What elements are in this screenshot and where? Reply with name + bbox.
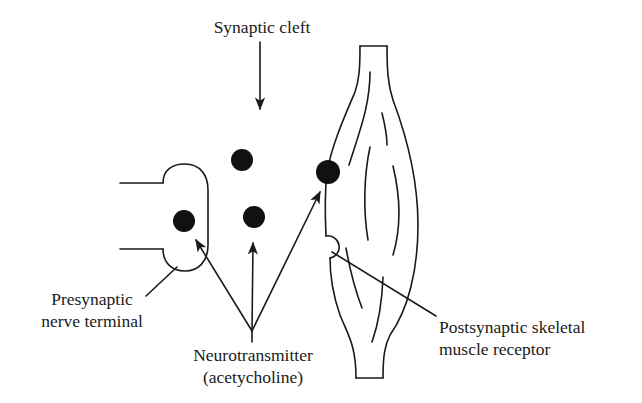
presynaptic-label-line1: Presynaptic — [51, 289, 133, 309]
muscle-striation — [393, 166, 399, 255]
acetylcholine-molecule-cleft-upper — [231, 149, 253, 171]
muscle-striation — [346, 248, 362, 308]
muscle-striation — [365, 147, 370, 240]
muscle-left-edge-upper — [325, 46, 360, 236]
acetylcholine-molecule-in-terminal — [173, 210, 195, 232]
synaptic-cleft-label: Synaptic cleft — [214, 17, 311, 37]
postsynaptic-label-line2: muscle receptor — [439, 339, 550, 359]
presynaptic-nerve-terminal — [120, 164, 208, 271]
presynaptic-leader-line — [146, 267, 177, 296]
neurotransmitter-label-line1: Neurotransmitter — [193, 345, 313, 365]
skeletal-muscle-fiber — [325, 46, 418, 378]
neuromuscular-junction-diagram: Synaptic cleft Presynaptic nerve termina… — [0, 0, 642, 403]
neurotransmitter-label-line2: (acetycholine) — [203, 367, 303, 387]
neurotransmitter-molecules — [173, 149, 340, 232]
muscle-striation — [372, 277, 383, 342]
muscle-right-edge — [383, 46, 418, 378]
acetylcholine-molecule-bound — [316, 160, 340, 184]
arrow-to-cleft-molecule — [252, 243, 253, 331]
arrow-to-terminal-molecule — [196, 240, 252, 331]
acetylcholine-molecule-cleft-lower — [243, 206, 265, 228]
postsynaptic-label-line1: Postsynaptic skeletal — [439, 317, 585, 337]
muscle-striation — [382, 113, 387, 145]
postsynaptic-leader-line — [332, 252, 436, 316]
presynaptic-label-line2: nerve terminal — [41, 311, 143, 331]
muscle-striation — [349, 72, 370, 165]
